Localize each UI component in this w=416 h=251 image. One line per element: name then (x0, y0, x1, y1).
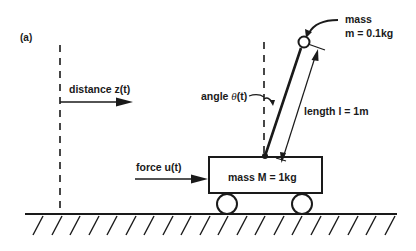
angle-arrowhead (270, 100, 276, 106)
angle-leader (249, 95, 264, 97)
distance-arrowhead (116, 98, 133, 107)
bob-mass-value: m = 0.1kg (345, 28, 393, 39)
pivot-joint (262, 153, 268, 159)
distance-label: distance z(t) (69, 84, 130, 95)
angle-label-prefix: angle (201, 90, 231, 102)
bob-mass-title: mass (345, 14, 372, 25)
cart-wheel-left (217, 194, 237, 214)
angle-label-suffix: (t) (237, 90, 248, 102)
length-label: length l = 1m (304, 106, 368, 117)
length-arrowhead-top (312, 49, 319, 61)
mass-leader (309, 20, 338, 33)
inverted-pendulum-diagram: (a) distance z(t) angle θ(t) length l = … (0, 0, 416, 251)
pendulum-bob (299, 37, 310, 48)
ground-hatching (33, 216, 395, 235)
cart-wheel-right (292, 194, 312, 214)
force-arrowhead (191, 175, 208, 184)
force-label: force u(t) (136, 162, 182, 173)
panel-label: (a) (20, 33, 32, 43)
angle-label: angle θ(t) (201, 91, 247, 102)
cart-mass-label: mass M = 1kg (228, 172, 297, 183)
pendulum-rod (265, 48, 301, 156)
length-tick-top (308, 44, 325, 50)
